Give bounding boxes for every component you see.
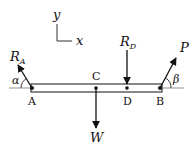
- point-c-label: C: [92, 70, 100, 83]
- force-ra-symbol: R: [9, 49, 20, 64]
- force-ra-subscript: A: [19, 57, 26, 66]
- point-d-label: D: [123, 95, 132, 108]
- x-axis-label: x: [76, 33, 84, 48]
- angle-alpha-arc: [21, 79, 27, 89]
- force-rd-label: RD: [119, 34, 137, 51]
- force-w-label: W: [90, 130, 105, 145]
- free-body-diagram: y x A C D B RA α P β RD W: [0, 0, 195, 153]
- angle-beta-arc: [166, 78, 172, 88]
- angle-alpha-label: α: [12, 74, 20, 87]
- force-ra-arrow: [18, 65, 32, 88]
- y-axis-label: y: [52, 7, 61, 22]
- angle-beta-label: β: [172, 73, 179, 86]
- point-d: [125, 86, 129, 90]
- force-rd-subscript: D: [129, 42, 137, 51]
- point-a-label: A: [27, 95, 37, 108]
- coordinate-axes: y x: [52, 7, 84, 48]
- force-rd-symbol: R: [119, 34, 130, 49]
- point-b-label: B: [156, 95, 164, 108]
- force-p-label: P: [179, 40, 189, 55]
- force-ra-label: RA: [9, 49, 26, 66]
- axes-lines: [57, 24, 72, 41]
